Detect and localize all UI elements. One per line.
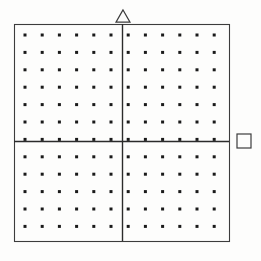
- grid-dot: [41, 225, 44, 228]
- grid-dot: [110, 68, 113, 71]
- grid-dot: [178, 121, 181, 124]
- grid-dot: [161, 225, 164, 228]
- grid-dot: [75, 51, 78, 54]
- grid-dot: [127, 86, 130, 89]
- grid-dot: [41, 173, 44, 176]
- grid-dot: [58, 86, 61, 89]
- grid-dot: [144, 51, 147, 54]
- grid-dot: [75, 155, 78, 158]
- grid-dot: [110, 190, 113, 193]
- grid-dot: [75, 173, 78, 176]
- grid-dot: [127, 51, 130, 54]
- grid-dot: [196, 208, 199, 211]
- grid-dot: [178, 34, 181, 37]
- grid-dot: [41, 103, 44, 106]
- grid-dot: [196, 51, 199, 54]
- grid-dot: [58, 121, 61, 124]
- grid-dot: [196, 225, 199, 228]
- grid-dot: [161, 34, 164, 37]
- grid-dot: [196, 68, 199, 71]
- grid-dot: [75, 138, 78, 141]
- grid-dot: [127, 155, 130, 158]
- grid-dot: [24, 68, 27, 71]
- grid-dot: [24, 51, 27, 54]
- grid-dot: [24, 121, 27, 124]
- grid-dot: [41, 190, 44, 193]
- grid-dot: [196, 190, 199, 193]
- grid-dot: [213, 138, 216, 141]
- grid-dot: [178, 51, 181, 54]
- grid-dot: [196, 86, 199, 89]
- grid-dot: [178, 138, 181, 141]
- grid-dot: [75, 121, 78, 124]
- grid-dot: [144, 225, 147, 228]
- grid-dot: [127, 121, 130, 124]
- grid-dot: [161, 173, 164, 176]
- grid-dot: [161, 121, 164, 124]
- grid-dot: [24, 173, 27, 176]
- grid-dot: [127, 103, 130, 106]
- grid-dot: [92, 138, 95, 141]
- grid-dot: [196, 173, 199, 176]
- grid-dot: [127, 173, 130, 176]
- grid-dot: [178, 173, 181, 176]
- grid-dot: [110, 86, 113, 89]
- grid-dot: [213, 190, 216, 193]
- grid-dot: [75, 103, 78, 106]
- grid-dot: [144, 208, 147, 211]
- grid-dot: [161, 51, 164, 54]
- grid-dot: [24, 225, 27, 228]
- grid-dot: [110, 34, 113, 37]
- grid-dot: [127, 190, 130, 193]
- grid-dot: [144, 121, 147, 124]
- grid-dot: [41, 155, 44, 158]
- markers-layer: [116, 10, 251, 148]
- grid-dot: [41, 68, 44, 71]
- grid-dot: [213, 34, 216, 37]
- grid-dot: [58, 138, 61, 141]
- square-marker-right[interactable]: [237, 134, 251, 148]
- grid-dot: [161, 138, 164, 141]
- grid-dot: [161, 103, 164, 106]
- grid-dot: [41, 34, 44, 37]
- triangle-marker-top[interactable]: [116, 10, 130, 22]
- grid-dot: [92, 190, 95, 193]
- grid-dot: [58, 208, 61, 211]
- grid-dot: [41, 86, 44, 89]
- grid-dot: [178, 103, 181, 106]
- grid-dot: [75, 190, 78, 193]
- grid-dot: [144, 138, 147, 141]
- grid-dot: [75, 208, 78, 211]
- grid-dot: [144, 173, 147, 176]
- grid-dot: [92, 155, 95, 158]
- grid-dot: [24, 138, 27, 141]
- grid-dot: [196, 34, 199, 37]
- grid-dot: [178, 208, 181, 211]
- grid-dot: [24, 190, 27, 193]
- grid-dot: [178, 86, 181, 89]
- grid-dot: [58, 51, 61, 54]
- grid-dot: [92, 51, 95, 54]
- grid-dot: [75, 34, 78, 37]
- grid-dot: [144, 190, 147, 193]
- grid-dot: [58, 103, 61, 106]
- grid-dot: [58, 225, 61, 228]
- grid-dot: [127, 68, 130, 71]
- grid-dot: [144, 103, 147, 106]
- grid-dot: [58, 155, 61, 158]
- grid-dot: [24, 155, 27, 158]
- grid-dot: [92, 121, 95, 124]
- grid-dot: [127, 138, 130, 141]
- grid-dot: [127, 208, 130, 211]
- grid-dot: [92, 173, 95, 176]
- grid-dot: [213, 68, 216, 71]
- grid-dot: [213, 208, 216, 211]
- dot-grid-layer: [24, 34, 216, 228]
- grid-dot: [196, 103, 199, 106]
- grid-dot: [213, 225, 216, 228]
- figure-canvas: [0, 0, 261, 261]
- grid-dot: [75, 225, 78, 228]
- grid-dot: [41, 121, 44, 124]
- grid-dot: [110, 121, 113, 124]
- grid-dot: [92, 103, 95, 106]
